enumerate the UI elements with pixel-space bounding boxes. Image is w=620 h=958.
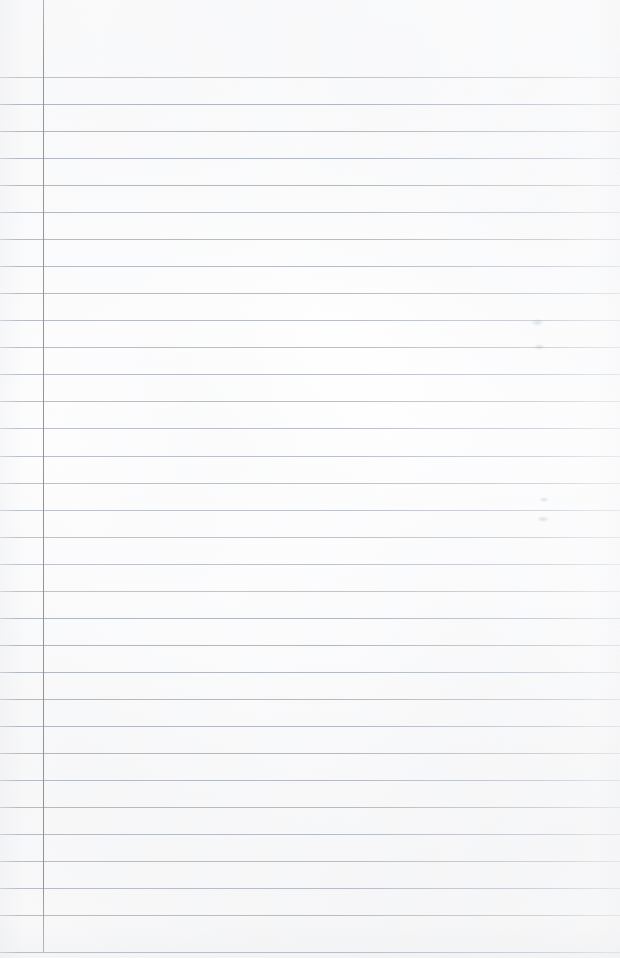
ruled-line <box>0 564 620 565</box>
ruled-line <box>0 239 620 240</box>
ruled-line <box>0 861 620 862</box>
ruled-line <box>0 915 620 916</box>
ruled-line <box>0 726 620 727</box>
ruled-line <box>0 320 620 321</box>
ruled-line <box>0 834 620 835</box>
ruled-line <box>0 131 620 132</box>
ruled-line <box>0 537 620 538</box>
ruled-line <box>0 77 620 78</box>
ruled-line <box>0 456 620 457</box>
ruled-line <box>0 591 620 592</box>
ruled-line <box>0 401 620 402</box>
margin-rule-line <box>43 0 44 952</box>
ruled-line <box>0 753 620 754</box>
ruled-line <box>0 618 620 619</box>
ruled-line <box>0 212 620 213</box>
paper-background <box>0 0 620 958</box>
ruled-line <box>0 266 620 267</box>
ruled-line <box>0 645 620 646</box>
ruled-line <box>0 374 620 375</box>
ruled-line <box>0 888 620 889</box>
ruled-line <box>0 158 620 159</box>
notebook-page <box>0 0 620 958</box>
ruled-line <box>0 428 620 429</box>
ruled-line <box>0 104 620 105</box>
ruled-line <box>0 699 620 700</box>
ruled-line <box>0 293 620 294</box>
ruled-line <box>0 952 620 953</box>
ruled-line <box>0 483 620 484</box>
ruled-line <box>0 347 620 348</box>
ruled-line <box>0 807 620 808</box>
ruled-line <box>0 185 620 186</box>
ruled-line <box>0 780 620 781</box>
ruled-line <box>0 672 620 673</box>
ruled-line <box>0 510 620 511</box>
